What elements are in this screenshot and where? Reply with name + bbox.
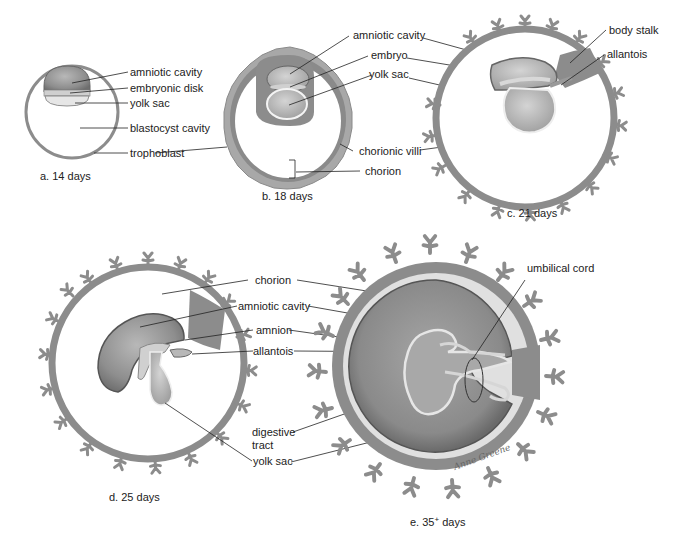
label-amnion: amnion [256, 324, 292, 336]
label-embryo: embryo [371, 49, 408, 61]
label-chorionic-villi: chorionic villi [359, 145, 421, 157]
caption-b: b. 18 days [262, 190, 313, 202]
amniotic-cavity-shape [44, 66, 90, 92]
panel-e-35-days: umbilical cord Anne Greene e. 35+ days [309, 236, 595, 528]
label-chorion: chorion [255, 274, 291, 286]
label-yolk-sac: yolk sac [253, 455, 293, 467]
caption-e-prefix: e. 35 [410, 516, 434, 528]
caption-e: e. 35+ days [410, 515, 466, 528]
embryonic-disk-shape [44, 90, 90, 96]
label-umbilical-cord: umbilical cord [527, 262, 594, 274]
panel-a-14-days: amniotic cavity embryonic disk yolk sac … [26, 66, 211, 182]
yolk-sac-shape [267, 89, 307, 119]
label-blastocyst-cavity: blastocyst cavity [130, 122, 211, 134]
embryo-development-diagram: amniotic cavity embryonic disk yolk sac … [0, 0, 673, 540]
label-amniotic-cavity: amniotic cavity [130, 66, 203, 78]
label-amniotic-cavity: amniotic cavity [353, 29, 426, 41]
label-amniotic-cavity: amniotic cavity [238, 300, 311, 312]
caption-a: a. 14 days [40, 170, 91, 182]
label-digestive: digestive [252, 426, 295, 438]
label-allantois: allantois [607, 48, 648, 60]
label-body-stalk: body stalk [609, 24, 659, 36]
caption-e-suffix: days [439, 516, 466, 528]
label-yolk-sac: yolk sac [130, 97, 170, 109]
label-tract: tract [252, 439, 273, 451]
panel-c-21-days: body stalk allantois c. 21 days [423, 16, 659, 220]
label-yolk-sac: yolk sac [369, 68, 409, 80]
caption-c: c. 21 days [507, 207, 558, 219]
label-embryonic-disk: embryonic disk [130, 82, 204, 94]
caption-d: d. 25 days [109, 491, 160, 503]
yolk-sac-shape [504, 88, 555, 132]
umbilical-stalk [512, 345, 540, 400]
label-chorion: chorion [365, 165, 401, 177]
label-allantois: allantois [253, 345, 294, 357]
